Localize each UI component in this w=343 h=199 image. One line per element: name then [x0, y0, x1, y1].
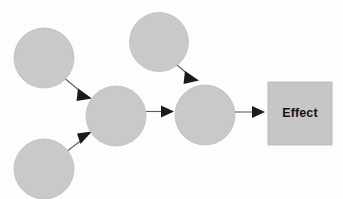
edge-top-left-to-middle[interactable]: [66, 79, 93, 101]
cause-node-top-left[interactable]: [14, 28, 74, 88]
causal-chain-diagram: Effect: [0, 0, 343, 199]
cause-node-bottom-left[interactable]: [14, 139, 74, 199]
intermediate-node-fourth[interactable]: [175, 85, 235, 145]
edge-top-center-to-fourth[interactable]: [177, 65, 199, 84]
diagram-canvas: Effect: [0, 0, 343, 199]
effect-box[interactable]: Effect: [268, 82, 332, 145]
cause-node-top-center[interactable]: [130, 13, 189, 72]
edge-middle-to-fourth[interactable]: [146, 106, 174, 118]
edge-fourth-to-effect[interactable]: [235, 106, 265, 118]
edge-bottom-left-to-middle[interactable]: [66, 132, 92, 153]
arrowhead-top-center-to-fourth: [184, 71, 200, 84]
effect-box-label: Effect: [282, 106, 318, 120]
intermediate-node-middle[interactable]: [86, 86, 146, 146]
arrowhead-fourth-to-effect: [252, 106, 265, 118]
arrowhead-top-left-to-middle: [77, 89, 93, 102]
arrowhead-middle-to-fourth: [161, 106, 174, 118]
